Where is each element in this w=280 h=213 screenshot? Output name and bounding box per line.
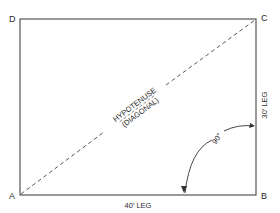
arrow-head-bottom [181, 186, 187, 193]
rectangle-diagram: HYPOTENUSE (DIAGONAL) 90° D C A B 40′ LE… [0, 0, 280, 213]
bottom-leg-label: 40′ LEG [125, 201, 152, 210]
right-leg-label: 30′ LEG [260, 91, 269, 118]
corner-c-label: C [261, 13, 268, 23]
angle-arc-upper [224, 126, 254, 131]
diagonal-line-upper [166, 20, 255, 85]
corner-a-label: A [9, 191, 15, 201]
corner-d-label: D [9, 14, 16, 24]
angle-arc-lower [185, 140, 212, 193]
corner-b-label: B [261, 191, 267, 201]
angle-label: 90° [210, 131, 224, 145]
diagonal-line-lower [21, 132, 104, 194]
